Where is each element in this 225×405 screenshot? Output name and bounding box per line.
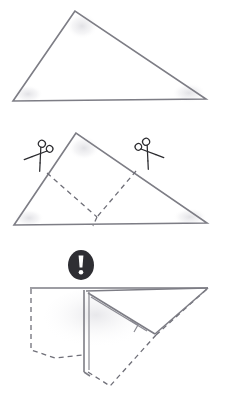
step-2-triangle-with-cut-lines — [14, 133, 207, 227]
step-3-folded-result — [30, 250, 208, 386]
diagram-canvas — [0, 0, 225, 405]
warning-icon — [68, 250, 94, 280]
step-1-plain-triangle — [13, 11, 206, 103]
paper-folding-diagram — [0, 0, 225, 405]
apex-shading-step2 — [68, 136, 100, 160]
exclamation-dot — [79, 270, 84, 275]
scissors-right-icon — [132, 136, 164, 169]
scissors-left-icon — [24, 138, 56, 171]
